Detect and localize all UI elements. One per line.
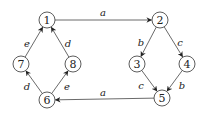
node-8: 8	[65, 56, 81, 72]
edge-label-4-5: b	[179, 80, 185, 91]
edge-label-3-5: c	[138, 80, 144, 91]
node-label: 6	[44, 94, 51, 107]
node-2: 2	[152, 12, 168, 28]
node-label: 4	[184, 58, 191, 71]
node-label: 3	[134, 58, 141, 71]
node-3: 3	[129, 56, 145, 72]
edge-label-1-2: a	[100, 7, 106, 18]
edge-label-7-1: e	[24, 38, 30, 49]
node-label: 1	[44, 14, 51, 27]
edge-label-2-3: b	[138, 37, 144, 48]
edge-label-8-1: d	[65, 38, 71, 49]
node-label: 7	[18, 58, 25, 71]
node-label: 5	[159, 92, 166, 105]
directed-graph: abccbadeed 12345678	[0, 0, 206, 119]
edge-label-6-8: e	[64, 81, 70, 92]
edge-5-to-6	[55, 98, 154, 100]
edge-3-to-5	[142, 70, 157, 91]
node-4: 4	[179, 56, 195, 72]
edge-label-2-4: c	[177, 37, 183, 48]
edge-label-6-7: d	[24, 81, 30, 92]
node-7: 7	[13, 56, 29, 72]
node-label: 8	[70, 58, 77, 71]
node-1: 1	[39, 12, 55, 28]
edge-label-5-6: a	[100, 87, 106, 98]
node-label: 2	[157, 14, 164, 27]
node-5: 5	[154, 90, 170, 106]
node-6: 6	[39, 92, 55, 108]
